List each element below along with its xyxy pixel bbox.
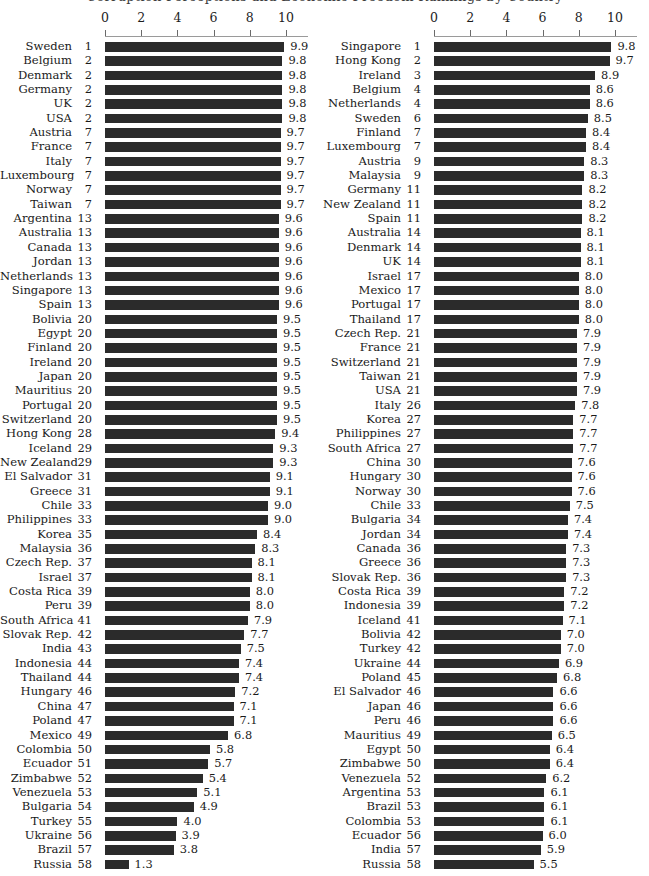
bar [105,774,203,784]
value-label: 6.8 [234,728,252,742]
country-label: Ukraine [320,656,401,670]
bar [434,515,568,525]
value-label: 9.8 [617,39,635,53]
bar [105,587,250,597]
bar [105,444,273,454]
value-label: 8.4 [263,527,281,541]
value-label: 7.9 [583,355,601,369]
rank-label: 33 [405,498,421,512]
rank-label: 13 [76,240,92,254]
bar [105,257,279,267]
country-label: Austria [0,125,72,139]
bar-row: Iceland299.3 [0,442,320,456]
rank-label: 29 [76,441,92,455]
bar [105,458,273,468]
rank-label: 33 [76,498,92,512]
rank-label: 39 [405,598,421,612]
bar-row: Turkey427.0 [320,642,649,656]
bar-row: New Zealand299.3 [0,456,320,470]
country-label: Czech Rep. [320,326,401,340]
bar-row: Argentina536.1 [320,786,649,800]
bar [105,214,279,224]
bar [105,515,268,525]
rank-label: 2 [76,53,92,67]
country-label: Chile [320,498,401,512]
country-label: Egypt [320,742,401,756]
country-label: Hong Kong [0,426,72,440]
bar-row: Spain139.6 [0,298,320,312]
bar [105,731,228,741]
rank-label: 2 [76,68,92,82]
bar-row: Thailand447.4 [0,671,320,685]
rank-label: 34 [405,512,421,526]
country-label: Finland [320,125,401,139]
value-label: 3.8 [180,842,198,856]
bar [434,716,553,726]
rank-label: 49 [405,728,421,742]
chart-panel-left: 0246810 Sweden19.9Belgium29.8Denmark29.8… [0,0,320,876]
country-label: Argentina [320,785,401,799]
bar-row: El Salvador319.1 [0,470,320,484]
value-label: 7.0 [567,627,585,641]
rank-label: 2 [76,111,92,125]
country-label: Argentina [0,211,72,225]
rank-label: 57 [405,842,421,856]
value-label: 7.6 [578,469,596,483]
bar-row: Belgium29.8 [0,54,320,68]
country-label: Ecuador [0,756,72,770]
bar-row: Poland477.1 [0,714,320,728]
bar-row: Brazil573.8 [0,843,320,857]
bar [105,788,197,798]
value-label: 7.3 [572,570,590,584]
bar [434,114,588,124]
bar-row: Norway79.7 [0,183,320,197]
rank-label: 7 [76,182,92,196]
rank-label: 9 [405,154,421,168]
country-label: Bulgaria [0,799,72,813]
bar-row: Mexico178.0 [320,284,649,298]
rank-label: 29 [76,455,92,469]
rank-label: 27 [405,441,421,455]
value-label: 9.3 [279,441,297,455]
country-label: Ireland [320,68,401,82]
bar [105,56,282,66]
bar-row: Greece319.1 [0,485,320,499]
country-label: Zimbabwe [320,756,401,770]
bar [105,716,234,726]
bar-row: India575.9 [320,843,649,857]
bar-row: Slovak Rep.427.7 [0,628,320,642]
bar-row: Malaysia98.3 [320,169,649,183]
axis-tick-label: 6 [210,12,218,24]
bar-row: France217.9 [320,341,649,355]
bar-row: Sweden68.5 [320,112,649,126]
bar [105,315,277,325]
bar [434,458,572,468]
value-label: 9.7 [287,182,305,196]
value-label: 7.3 [572,541,590,555]
bar-row: Luxembourg78.4 [320,140,649,154]
value-label: 7.4 [245,670,263,684]
country-label: Norway [320,484,401,498]
country-label: Hungary [320,469,401,483]
bar-row: Netherlands139.6 [0,270,320,284]
bar [434,157,584,167]
bar-row: Thailand178.0 [320,313,649,327]
bar [434,487,572,497]
bar-row: Australia139.6 [0,226,320,240]
bar [434,128,586,138]
rank-label: 11 [405,197,421,211]
axis-left: 0246810 [0,0,320,40]
country-label: Costa Rica [0,584,72,598]
bar-row: Jordan347.4 [320,528,649,542]
value-label: 8.4 [592,125,610,139]
bar-row: Australia148.1 [320,226,649,240]
value-label: 8.0 [585,269,603,283]
bar-row: Ireland38.9 [320,69,649,83]
bar-row: Finland209.5 [0,341,320,355]
bar [105,329,277,339]
value-label: 6.2 [552,771,570,785]
country-label: New Zealand [320,197,401,211]
country-label: Thailand [0,670,72,684]
country-label: Poland [0,713,72,727]
country-label: Hong Kong [320,53,401,67]
